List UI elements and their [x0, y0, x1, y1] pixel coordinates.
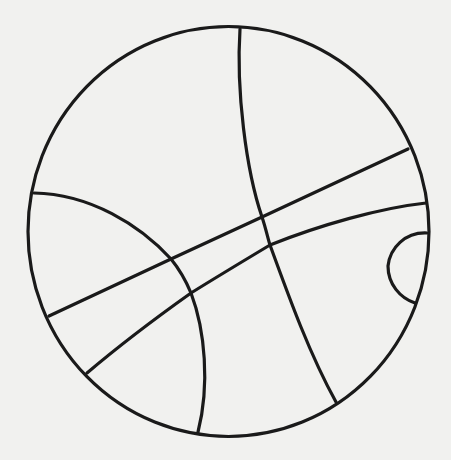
vertical-seam [239, 29, 336, 402]
basketball-icon [0, 0, 451, 460]
basketball-drawing [0, 0, 451, 460]
upper-band-seam [49, 149, 408, 316]
